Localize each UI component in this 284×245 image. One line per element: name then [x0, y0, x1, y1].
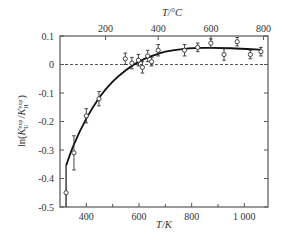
x2-tick-label: 600 — [203, 23, 218, 34]
y-tick-label: -0.2 — [38, 116, 54, 127]
y-tick-label: 0 — [49, 59, 54, 70]
open-circle-marker — [123, 57, 127, 61]
data-points — [64, 37, 263, 194]
fit-curve — [66, 48, 261, 207]
data-point — [235, 37, 239, 46]
y-tick-label: 0.1 — [42, 31, 55, 42]
open-circle-marker — [156, 48, 160, 52]
x-tick-label: 1 000 — [233, 211, 256, 222]
open-circle-marker — [146, 54, 150, 58]
x2-tick-label: 200 — [98, 23, 113, 34]
open-circle-marker — [130, 61, 134, 65]
data-point — [248, 50, 252, 59]
open-circle-marker — [222, 52, 226, 56]
open-circle-marker — [84, 114, 88, 118]
data-point — [259, 47, 263, 56]
x2-tick-label: 400 — [151, 23, 166, 34]
fit-line — [66, 48, 261, 166]
data-point — [196, 43, 200, 52]
open-circle-marker — [64, 191, 68, 195]
axis-ticks: 4006008001 0002004006008000.10-0.1-0.2-0… — [38, 23, 271, 222]
open-circle-marker — [196, 45, 200, 49]
plot-frame — [60, 36, 268, 207]
plot-axes — [60, 36, 268, 207]
data-point — [64, 191, 68, 195]
x2-axis-title: T/°C — [162, 7, 183, 18]
y-tick-label: -0.5 — [38, 202, 54, 213]
open-circle-marker — [182, 48, 186, 52]
data-point — [97, 92, 101, 106]
open-circle-marker — [248, 52, 252, 56]
x-tick-label: 800 — [184, 211, 199, 222]
y-tick-label: -0.1 — [38, 88, 54, 99]
data-point — [182, 45, 186, 56]
open-circle-marker — [97, 97, 101, 101]
open-circle-marker — [150, 60, 154, 64]
x-tick-label: 600 — [131, 211, 146, 222]
y-tick-label: -0.3 — [38, 145, 54, 156]
open-circle-marker — [140, 65, 144, 69]
x-axis-title: T/K — [156, 219, 173, 230]
x2-tick-label: 800 — [256, 23, 271, 34]
data-point — [140, 62, 144, 73]
data-point — [222, 49, 226, 60]
open-circle-marker — [209, 41, 213, 45]
open-circle-marker — [259, 50, 263, 54]
chart: 4006008001 0002004006008000.10-0.1-0.2-0… — [0, 0, 284, 245]
data-point — [123, 53, 127, 64]
data-point — [146, 50, 150, 61]
open-circle-marker — [235, 40, 239, 44]
open-circle-marker — [72, 151, 76, 155]
y-tick-label: -0.4 — [38, 173, 54, 184]
svg-text:ln(KexpU/KexpH): ln(KexpU/KexpH) — [16, 94, 29, 147]
y-axis-title: ln(KexpU/KexpH) — [16, 94, 29, 147]
open-circle-marker — [136, 58, 140, 62]
x-tick-label: 400 — [79, 211, 94, 222]
data-point — [209, 39, 213, 48]
